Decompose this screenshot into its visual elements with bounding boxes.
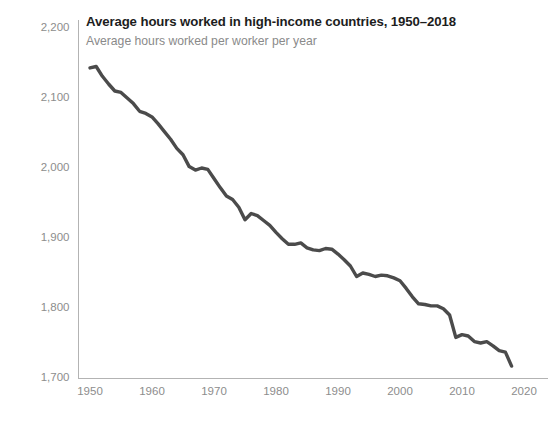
x-tick-label: 1960 xyxy=(139,385,165,397)
y-tick-label: 2,200 xyxy=(41,21,70,33)
chart-container: Average hours worked in high-income coun… xyxy=(0,0,557,424)
x-tick-label: 1950 xyxy=(77,385,103,397)
y-axis-tick-labels: 1,7001,8001,9002,0002,1002,200 xyxy=(41,21,70,383)
line-chart-svg: 1,7001,8001,9002,0002,1002,200 195019601… xyxy=(0,0,557,424)
x-tick-label: 2020 xyxy=(511,385,537,397)
x-tick-label: 1990 xyxy=(325,385,351,397)
x-tick-label: 1980 xyxy=(263,385,289,397)
x-axis-tick-labels: 19501960197019801990200020102020 xyxy=(77,385,537,397)
x-tick-label: 2010 xyxy=(449,385,475,397)
y-tick-label: 1,700 xyxy=(41,371,70,383)
axis-lines xyxy=(79,20,549,379)
y-tick-label: 1,900 xyxy=(41,231,70,243)
data-series-line xyxy=(90,67,512,367)
y-tick-label: 2,100 xyxy=(41,91,70,103)
x-tick-label: 2000 xyxy=(387,385,413,397)
y-tick-label: 2,000 xyxy=(41,161,70,173)
y-tick-label: 1,800 xyxy=(41,301,70,313)
x-tick-label: 1970 xyxy=(201,385,227,397)
